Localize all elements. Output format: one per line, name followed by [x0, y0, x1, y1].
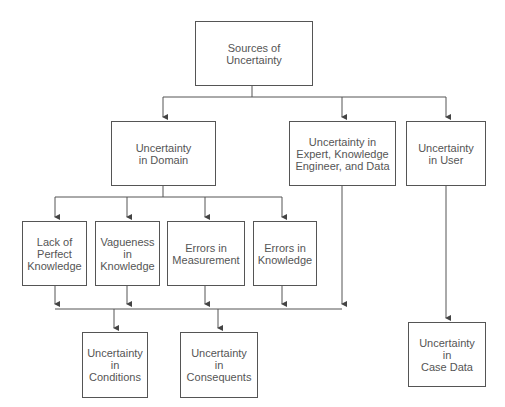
- node-uncertainty-in-conditions: Uncertainty in Conditions: [82, 332, 148, 398]
- node-uncertainty-in-domain: Uncertainty in Domain: [111, 121, 216, 186]
- node-uncertainty-in-expert: Uncertainty in Expert, Knowledge Enginee…: [289, 121, 396, 186]
- node-vagueness-in-knowledge: Vagueness in Knowledge: [95, 221, 160, 286]
- node-errors-in-measurement: Errors in Measurement: [167, 221, 245, 286]
- node-sources-of-uncertainty: Sources of Uncertainty: [195, 21, 313, 86]
- node-lack-of-perfect-knowledge: Lack of Perfect Knowledge: [22, 221, 87, 286]
- node-errors-in-knowledge: Errors in Knowledge: [253, 221, 317, 286]
- node-uncertainty-in-consequents: Uncertainty in Consequents: [180, 332, 258, 398]
- node-uncertainty-in-user: Uncertainty in User: [406, 121, 486, 186]
- node-uncertainty-in-case-data: Uncertainty in Case Data: [408, 322, 486, 387]
